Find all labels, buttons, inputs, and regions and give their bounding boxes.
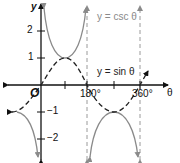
csc-branch-upper — [44, 8, 86, 58]
y-tick-label-1: 1 — [28, 51, 34, 62]
csc-series — [17, 8, 138, 157]
legend-sin: y = sin θ — [97, 66, 135, 77]
y-tick-label-2: 2 — [27, 24, 33, 35]
y-tick-label-m1: −1 — [47, 105, 58, 116]
csc-branch-lower — [90, 112, 138, 157]
trig-graph: y 2 1 −1 −2 O 180° 360° θ y = csc θ y = … — [0, 0, 180, 163]
origin-label: O — [30, 86, 39, 100]
x-tick-label-360: 360° — [132, 88, 153, 99]
csc-branch-left — [17, 112, 38, 157]
x-tick-label-180: 180° — [80, 88, 101, 99]
x-axis-label: θ — [167, 87, 173, 98]
y-axis-label: y — [31, 1, 37, 12]
legend-csc: y = csc θ — [97, 11, 137, 22]
y-tick-label-m2: −2 — [47, 132, 58, 143]
